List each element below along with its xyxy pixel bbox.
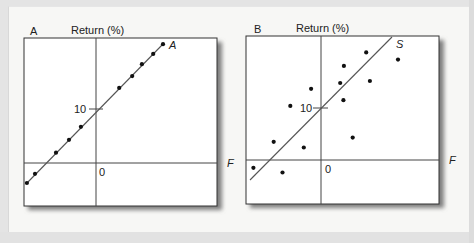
data-point: [67, 138, 71, 142]
data-point: [251, 166, 255, 170]
data-point: [117, 86, 121, 90]
panel-a-y-axis-label: Return (%): [71, 24, 124, 36]
figure: A Return (%) A 10 0 F B Return (%) S 10 …: [0, 0, 474, 243]
data-point: [302, 145, 306, 149]
panel-a-tick-label-10: 10: [74, 103, 86, 115]
panel-b-x-axis-label: F: [449, 154, 457, 166]
panel-b-tick-label-10: 10: [300, 102, 312, 114]
data-point: [140, 62, 144, 66]
panel-a-line-label: A: [168, 39, 176, 51]
data-point: [272, 140, 276, 144]
data-point: [341, 98, 345, 102]
data-point: [25, 181, 29, 185]
panel-b-label: B: [254, 23, 261, 35]
data-point: [342, 64, 346, 68]
panel-a-origin-label: 0: [99, 166, 105, 178]
data-point: [79, 125, 83, 129]
data-point: [309, 87, 313, 91]
data-point: [351, 136, 355, 140]
data-point: [33, 172, 37, 176]
data-point: [151, 52, 155, 56]
panel-b: B Return (%) S 10 0 F: [246, 22, 457, 208]
panel-a-label: A: [30, 25, 38, 37]
panel-b-line-label: S: [396, 38, 404, 50]
panel-a-x-axis-label: F: [227, 157, 235, 169]
data-point: [161, 42, 165, 46]
panel-b-frame: [246, 36, 439, 204]
data-point: [396, 58, 400, 62]
panel-a: A Return (%) A 10 0 F: [24, 24, 235, 210]
data-point: [364, 50, 368, 54]
panel-b-y-axis-label: Return (%): [296, 22, 349, 34]
data-point: [130, 74, 134, 78]
data-point: [338, 81, 342, 85]
data-point: [54, 151, 58, 155]
panel-a-frame: [24, 38, 217, 206]
data-point: [280, 170, 284, 174]
data-point: [368, 79, 372, 83]
data-point: [288, 104, 292, 108]
panel-b-origin-label: 0: [325, 163, 331, 175]
